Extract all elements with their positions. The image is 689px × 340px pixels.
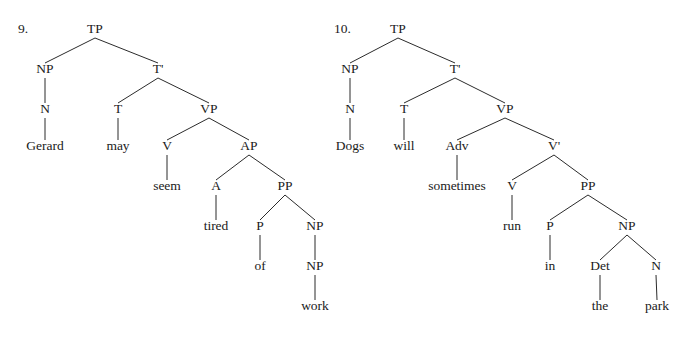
branch-ap-to-a <box>216 155 249 180</box>
branch-pp-to-p <box>260 195 285 220</box>
tree-branches <box>350 38 657 300</box>
branch-n2-to-park <box>656 275 657 300</box>
branch-np2-to-det <box>600 235 627 260</box>
trees-root: 9.TPNPT'NTVPGerardmayVAPseemAPPtiredPNPo… <box>18 21 669 313</box>
terminal-word-may: may <box>106 138 129 153</box>
branch-pp-to-np2 <box>285 195 315 220</box>
terminal-word-dogs: Dogs <box>336 138 365 153</box>
branch-vbar-to-v <box>512 155 554 180</box>
node-label-tbar: T' <box>153 61 164 76</box>
tree-item-number: 10. <box>334 21 351 36</box>
tree-branches <box>45 38 315 300</box>
syntax-tree-tree-9: 9.TPNPT'NTVPGerardmayVAPseemAPPtiredPNPo… <box>18 21 329 313</box>
node-label-pp: PP <box>277 178 292 193</box>
node-label-v: V <box>162 138 172 153</box>
node-label-np2: NP <box>618 218 635 233</box>
branch-vp-to-adv <box>457 118 505 140</box>
node-label-p: P <box>256 218 264 233</box>
node-label-n: N <box>40 101 50 116</box>
node-label-v: V <box>507 178 517 193</box>
tree-nodes: TPNPT'NTVPDogswillAdvV'sometimesVPPrunPN… <box>336 21 669 313</box>
terminal-word-gerard: Gerard <box>26 138 64 153</box>
branch-tbar-to-vp <box>455 78 505 103</box>
node-label-t: T <box>400 101 409 116</box>
terminal-word-tired: tired <box>204 218 229 233</box>
node-label-adv: Adv <box>445 138 468 153</box>
terminal-word-will: will <box>393 138 414 153</box>
tree-item-number: 9. <box>18 21 28 36</box>
node-label-np2: NP <box>306 218 323 233</box>
node-label-n: N <box>345 101 355 116</box>
terminal-word-seem: seem <box>153 178 181 193</box>
syntax-tree-figure: 9.TPNPT'NTVPGerardmayVAPseemAPPtiredPNPo… <box>0 0 689 340</box>
node-label-pp: PP <box>580 178 595 193</box>
node-label-vp: VP <box>200 101 217 116</box>
branch-tbar-to-vp <box>158 78 209 103</box>
terminal-word-run: run <box>503 218 521 233</box>
node-label-det: Det <box>590 258 610 273</box>
terminal-word-of: of <box>254 258 266 273</box>
branch-vp-to-vbar <box>505 118 554 140</box>
branch-ap-to-pp <box>249 155 285 180</box>
node-label-n2: N <box>651 258 661 273</box>
syntax-tree-tree-10: 10.TPNPT'NTVPDogswillAdvV'sometimesVPPru… <box>334 21 669 313</box>
node-label-tbar: T' <box>450 61 461 76</box>
node-label-tp: TP <box>87 21 103 36</box>
branch-tbar-to-t <box>404 78 455 103</box>
node-label-np3: NP <box>306 258 323 273</box>
branch-tbar-to-t <box>118 78 158 103</box>
terminal-word-park: park <box>645 298 669 313</box>
tree-diagram-canvas: 9.TPNPT'NTVPGerardmayVAPseemAPPtiredPNPo… <box>0 0 689 340</box>
node-label-p: P <box>546 218 554 233</box>
branch-tp-to-tbar <box>398 38 455 63</box>
node-label-tp: TP <box>390 21 406 36</box>
node-label-vp: VP <box>496 101 513 116</box>
terminal-word-in: in <box>545 258 556 273</box>
node-label-t: T <box>114 101 123 116</box>
branch-tp-to-np <box>45 38 95 63</box>
branch-pp-to-p <box>550 195 588 220</box>
branch-vp-to-ap <box>209 118 249 140</box>
branch-tp-to-np <box>350 38 398 63</box>
node-label-np: NP <box>36 61 53 76</box>
node-label-a: A <box>211 178 221 193</box>
node-label-np: NP <box>341 61 358 76</box>
node-label-vbar: V' <box>548 138 560 153</box>
terminal-word-work: work <box>301 298 329 313</box>
branch-vp-to-v <box>167 118 209 140</box>
terminal-word-the: the <box>592 298 609 313</box>
tree-nodes: TPNPT'NTVPGerardmayVAPseemAPPtiredPNPofN… <box>26 21 329 313</box>
branch-tp-to-tbar <box>95 38 158 63</box>
branch-pp-to-np2 <box>588 195 627 220</box>
branch-vbar-to-pp <box>554 155 588 180</box>
terminal-word-sometimes: sometimes <box>428 178 486 193</box>
node-label-ap: AP <box>240 138 257 153</box>
branch-np2-to-n2 <box>627 235 656 260</box>
